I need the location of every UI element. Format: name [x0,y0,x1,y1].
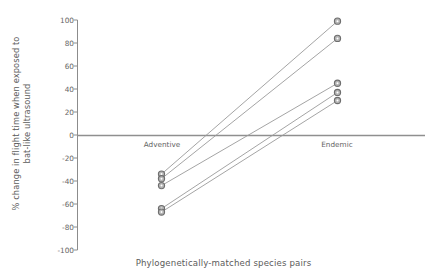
data-point-marker-center [337,91,339,93]
data-point-marker-center [337,100,339,102]
y-axis-ticks [74,20,78,250]
pair-line [162,83,338,185]
data-point-marker-center [337,82,339,84]
data-point-marker-center [161,185,163,187]
plot-area [0,0,447,271]
x-category-label-endemic: Endemic [321,140,353,149]
x-axis-title: Phylogenetically-matched species pairs [0,258,447,268]
pair-line [162,21,338,174]
data-point-marker-center [161,211,163,213]
data-point-markers [158,18,340,215]
chart-figure: % change in flight time when exposed to … [0,0,447,271]
data-point-marker-center [337,20,339,22]
data-point-marker-center [161,173,163,175]
data-point-marker-center [161,178,163,180]
data-point-marker-center [337,37,339,39]
pair-line [162,38,338,178]
pair-line [162,92,338,208]
pair-line [162,101,338,213]
pair-connector-lines [162,21,338,212]
x-category-label-adventive: Adventive [144,140,181,149]
